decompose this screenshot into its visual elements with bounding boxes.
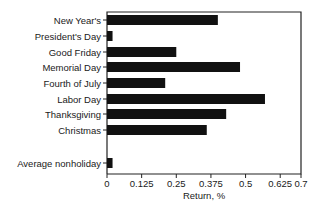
bar — [107, 62, 240, 72]
category-label: Christmas — [58, 125, 101, 136]
category-label: Labor Day — [57, 94, 101, 105]
x-tick-label: 0.375 — [199, 178, 223, 189]
bar — [107, 109, 226, 119]
x-axis-ticks: 00.1250.250.3750.50.6250.7 — [104, 174, 307, 189]
bar — [107, 78, 165, 88]
x-tick-label: 0.125 — [130, 178, 154, 189]
category-label: Good Friday — [49, 47, 102, 58]
bar — [107, 94, 265, 104]
bars — [107, 15, 265, 168]
x-tick-label: 0.7 — [294, 178, 307, 189]
x-tick-label: 0.625 — [268, 178, 292, 189]
bar — [107, 125, 207, 135]
category-labels: New Year'sPresident's DayGood FridayMemo… — [17, 15, 107, 169]
x-tick-label: 0 — [104, 178, 109, 189]
category-label: Average nonholiday — [17, 158, 101, 169]
bar — [107, 15, 218, 25]
category-label: Memorial Day — [42, 62, 101, 73]
plot-frame — [107, 12, 301, 174]
category-label: Thanksgiving — [45, 109, 101, 120]
holiday-returns-bar-chart: New Year'sPresident's DayGood FridayMemo… — [0, 0, 316, 206]
bar — [107, 31, 113, 41]
bar — [107, 47, 176, 57]
x-tick-label: 0.25 — [167, 178, 186, 189]
category-label: Fourth of July — [43, 78, 101, 89]
x-tick-label: 0.5 — [239, 178, 252, 189]
axes-box — [107, 12, 301, 174]
category-label: President's Day — [35, 31, 101, 42]
x-axis-title: Return, % — [183, 190, 226, 201]
bar — [107, 158, 113, 168]
category-label: New Year's — [54, 15, 101, 26]
